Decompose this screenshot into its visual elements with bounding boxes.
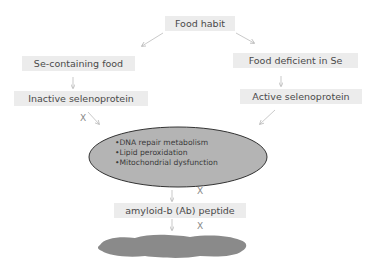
node-active-selenoprotein: Active selenoprotein [240,89,362,104]
diagram-connectors [0,0,373,269]
ellipse-item-lipid-peroxidation: •Lipid peroxidation [115,148,187,158]
amyloid-plaque-shape [98,235,246,258]
arrow-active-to-ellipse [260,110,275,124]
block-mark-ellipse: X [197,186,203,196]
arrow-habit-to-deficient [236,33,254,43]
ellipse-item-dna-repair: •DNA repair metabolism [115,138,208,148]
node-food-habit: Food habit [165,16,235,31]
node-amyloid-peptide: amyloid-b (Ab) peptide [114,203,246,218]
block-mark-amyloid: X [197,221,203,231]
ellipse-item-mitochondrial-dysfunction: •Mitochondrial dysfunction [115,158,218,168]
arrow-habit-to-se-food [142,33,163,46]
node-se-containing-food: Se-containing food [22,56,135,71]
arrow-inactive-to-ellipse [88,112,99,124]
block-mark-inactive: X [80,113,86,123]
node-inactive-selenoprotein: Inactive selenoprotein [14,91,148,106]
node-food-deficient-in-se: Food deficient in Se [233,53,358,68]
